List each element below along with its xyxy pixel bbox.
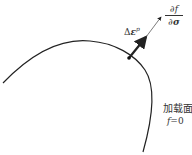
diagram-canvas	[0, 0, 192, 155]
gradient-numerator: ∂f	[165, 4, 183, 14]
plastic-strain-label: Δεp	[124, 26, 140, 37]
stress-point	[127, 56, 131, 60]
surface-equation: f=0	[167, 117, 184, 126]
gradient-label: ∂f ∂σ	[165, 4, 183, 27]
gradient-denominator: ∂σ	[165, 17, 183, 27]
equals-zero: =0	[170, 116, 183, 126]
fraction-bar	[165, 15, 183, 16]
normal-direction-line	[146, 17, 161, 37]
plastic-strain-increment-arrow	[129, 37, 146, 58]
loading-surface-label: 加载面	[163, 104, 192, 114]
superscript-p: p	[136, 25, 140, 32]
sigma-symbol: σ	[173, 17, 180, 27]
